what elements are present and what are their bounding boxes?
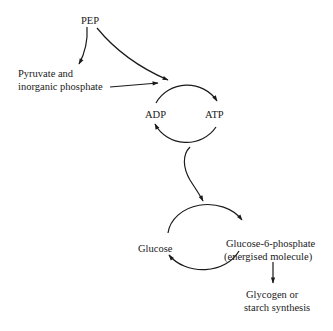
label-glucose: Glucose xyxy=(138,242,172,255)
label-pep: PEP xyxy=(81,14,99,27)
arrow-pep-to-pyruvate xyxy=(79,27,87,64)
arrow-atp-cycle-to-glucose-cycle xyxy=(184,147,203,201)
label-glycogen-line1: Glycogen or xyxy=(246,288,298,301)
diagram-canvas xyxy=(0,0,333,331)
label-g6p-line1: Glucose-6-phosphate xyxy=(226,237,315,250)
label-adp: ADP xyxy=(145,108,166,121)
label-pyruvate-line2: inorganic phosphate xyxy=(18,80,103,93)
label-pyruvate-line1: Pyruvate and xyxy=(18,67,73,80)
arc-atp-to-adp xyxy=(155,124,216,142)
arc-glucose-to-g6p xyxy=(168,205,242,233)
arc-adp-to-atp xyxy=(156,85,217,103)
label-atp: ATP xyxy=(205,108,224,121)
arrow-pep-to-cycle xyxy=(97,28,168,80)
label-glycogen-line2: starch synthesis xyxy=(244,301,310,314)
arrow-pyruvate-to-cycle xyxy=(110,83,158,87)
label-g6p-line2: (energised molecule) xyxy=(224,250,312,263)
